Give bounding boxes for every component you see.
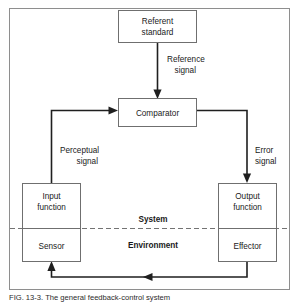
label-perceptual-signal: Perceptual signal	[60, 146, 99, 166]
perceptual-signal-line2: signal	[77, 157, 99, 166]
perceptual-signal-line1: Perceptual	[60, 146, 99, 155]
figure-canvas: Referent standard Comparator Input funct…	[0, 0, 298, 302]
edge-environment-feedback	[47, 261, 247, 281]
edge-reference-signal	[153, 42, 161, 99]
comparator-label: Comparator	[136, 109, 180, 118]
output-function-label-line1: Output	[235, 192, 260, 201]
sensor-label: Sensor	[39, 242, 65, 251]
arrowhead-into-output-function	[243, 174, 251, 184]
effector-label: Effector	[233, 242, 261, 251]
referent-standard-label-line1: Referent	[142, 17, 174, 26]
input-function-label-line1: Input	[42, 192, 61, 201]
edge-error-signal	[197, 111, 251, 184]
output-function-label-line2: function	[233, 203, 262, 212]
arrowhead-into-comparator-left	[109, 106, 119, 114]
arrowhead-feedback-midpoint	[143, 273, 153, 281]
reference-signal-line1: Reference	[167, 55, 205, 64]
feedback-control-diagram: Referent standard Comparator Input funct…	[0, 0, 298, 302]
label-error-signal: Error signal	[255, 146, 277, 166]
system-region-label: System	[138, 215, 167, 224]
error-signal-line1: Error	[255, 146, 273, 155]
referent-standard-label-line2: standard	[142, 28, 174, 37]
arrowhead-into-sensor	[47, 261, 55, 271]
node-output-effector-stack: Output function Effector	[219, 184, 277, 262]
reference-signal-line2: signal	[175, 66, 197, 75]
node-comparator: Comparator	[119, 99, 197, 127]
error-signal-line2: signal	[255, 157, 277, 166]
label-reference-signal: Reference signal	[167, 55, 205, 75]
node-input-sensor-stack: Input function Sensor	[23, 184, 81, 262]
figure-caption: FIG. 13-3. The general feedback-control …	[9, 293, 170, 302]
node-referent-standard: Referent standard	[119, 11, 197, 43]
input-function-label-line2: function	[37, 203, 66, 212]
edge-perceptual-signal	[52, 106, 119, 183]
environment-region-label: Environment	[128, 241, 178, 250]
arrowhead-into-comparator	[153, 90, 161, 100]
